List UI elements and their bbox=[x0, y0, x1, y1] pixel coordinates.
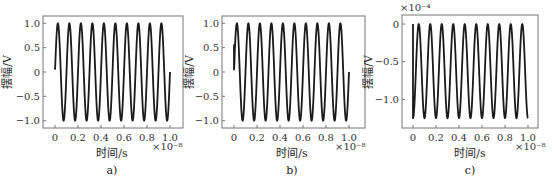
x-tick-label: 0 bbox=[410, 132, 416, 143]
y-tick-label: 0 bbox=[393, 19, 399, 30]
chart-c-y-multiplier: ×10⁻⁴ bbox=[400, 2, 430, 13]
y-tick-label: −0.5 bbox=[375, 56, 399, 67]
chart-c-waveform bbox=[413, 24, 528, 118]
x-tick-label: 0.8 bbox=[497, 132, 513, 143]
x-tick-label: 0.2 bbox=[428, 132, 444, 143]
chart-c-y-ticks: 0−0.5−1.0 bbox=[375, 19, 405, 105]
chart-c-x-multiplier: ×10⁻⁸ bbox=[515, 141, 545, 152]
x-tick-label: 0.6 bbox=[474, 132, 490, 143]
chart-c-caption: c) bbox=[465, 164, 475, 177]
chart-panel-c: 0−0.5−1.0 00.20.40.60.81.0 摆幅/V ×10⁻⁴ 时间… bbox=[0, 0, 554, 182]
y-tick-label: −1.0 bbox=[375, 94, 399, 105]
chart-c-ylabel: 摆幅/V bbox=[361, 54, 375, 89]
x-tick-label: 0.4 bbox=[451, 132, 467, 143]
chart-c-xlabel: 时间/s bbox=[454, 147, 486, 160]
chart-c-plot: 0−0.5−1.0 00.20.40.60.81.0 摆幅/V ×10⁻⁴ 时间… bbox=[0, 0, 554, 182]
